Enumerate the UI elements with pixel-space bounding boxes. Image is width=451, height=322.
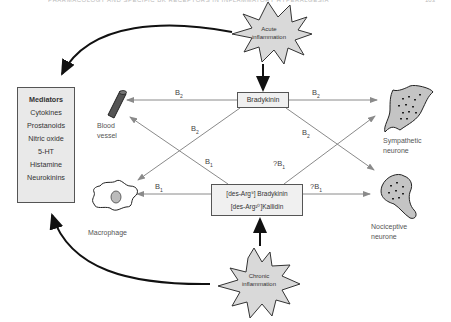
receptor-label-b1-macrophage: B1	[155, 182, 163, 193]
sympathetic-neurone-label: Sympathetic neurone	[383, 136, 422, 156]
mediator-item: Nitric oxide	[18, 132, 74, 145]
bradykinin-box: Bradykinin	[237, 92, 289, 108]
sympathetic-neurone-icon	[385, 85, 433, 132]
desarg-to-sympathetic-arrow	[284, 116, 375, 184]
nociceptive-neurone-icon	[381, 174, 416, 218]
chronic-to-mediators-curve	[52, 215, 210, 284]
mediator-item: Histamine	[18, 158, 74, 171]
receptor-label-b2-vessel: B2	[175, 88, 183, 99]
mediator-item: Cytokines	[18, 106, 74, 119]
mediator-item: Neurokinins	[18, 171, 74, 184]
blood-vessel-label: Blood vessel	[97, 121, 117, 141]
mediators-title: Mediators	[18, 93, 74, 106]
receptor-label-qb1-nociceptive: ?B1	[310, 182, 322, 193]
mediator-item: Prostanoids	[18, 119, 74, 132]
receptor-label-qb1-sympathetic: ?B1	[273, 159, 285, 170]
blood-vessel-icon	[108, 91, 127, 119]
mediator-item: 5-HT	[18, 145, 74, 158]
macrophage-icon	[93, 180, 138, 210]
receptor-label-b2-sympathetic: B2	[312, 88, 320, 99]
mediators-box: Mediators Cytokines Prostanoids Nitric o…	[17, 87, 75, 203]
bk-to-nociceptive-arrow	[286, 108, 374, 170]
receptor-label-b2-nociceptive: B2	[302, 128, 310, 139]
acute-inflammation-label: Acute inflammation	[246, 25, 292, 41]
acute-to-mediators-curve	[62, 26, 232, 74]
des-arg-kallidin-label: [des-Arg¹⁰]Kallidin	[212, 200, 302, 213]
bk-to-macrophage-arrow	[138, 108, 240, 180]
receptor-label-b1-vessel: B1	[205, 157, 213, 168]
nociceptive-neurone-label: Nociceptive neurone	[371, 222, 407, 242]
chronic-inflammation-label: Chronic inflammation	[234, 272, 284, 288]
receptor-label-b2-macrophage: B2	[191, 124, 199, 135]
des-arg-bradykinin-label: [des-Arg⁹] Bradykinin	[212, 187, 302, 200]
des-arg-box: [des-Arg⁹] Bradykinin [des-Arg¹⁰]Kallidi…	[211, 184, 303, 216]
macrophage-label: Macrophage	[88, 228, 127, 238]
